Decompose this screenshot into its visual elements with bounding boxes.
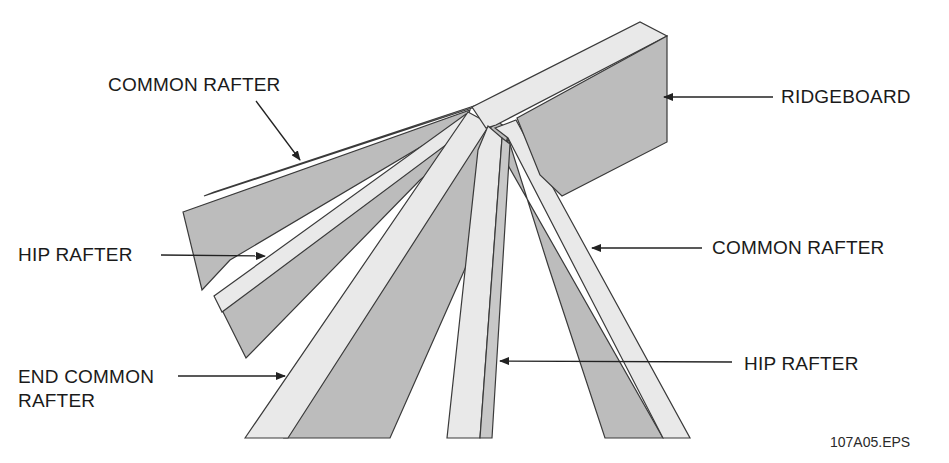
label-common-rafter-right: COMMON RAFTER [712,237,885,259]
label-end-common-rafter-line2: RAFTER [18,390,95,412]
leader-hip-rafter-left [161,255,265,256]
figure-id: 107A05.EPS [830,434,910,450]
label-common-rafter-top: COMMON RAFTER [108,74,281,96]
leader-common-rafter-top [256,101,300,160]
label-ridgeboard: RIDGEBOARD [781,86,911,108]
label-end-common-rafter-line1: END COMMON [18,366,154,388]
leader-hip-rafter-bottom [500,361,732,362]
label-hip-rafter-left: HIP RAFTER [18,244,133,266]
roof-framing-diagram [0,0,949,463]
label-hip-rafter-bottom: HIP RAFTER [744,353,859,375]
